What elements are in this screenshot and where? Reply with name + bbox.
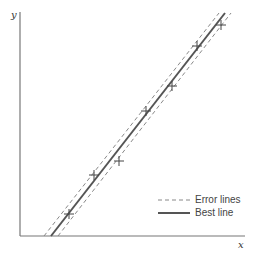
- legend-error-label: Error lines: [195, 194, 241, 205]
- x-axis-label: x: [238, 239, 244, 250]
- plus-marker-icon: [141, 106, 151, 116]
- plus-marker-icon: [114, 156, 124, 166]
- plus-marker-icon: [167, 81, 177, 91]
- chart: y x Error lines Best line: [0, 0, 258, 255]
- plus-marker-icon: [192, 41, 202, 51]
- legend: Error lines Best line: [158, 194, 241, 218]
- legend-best-label: Best line: [195, 207, 234, 218]
- plus-marker-icon: [89, 170, 99, 180]
- y-axis-label: y: [10, 9, 17, 20]
